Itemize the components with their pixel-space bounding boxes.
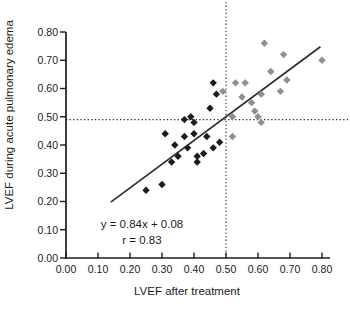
y-axis-title: LVEF during acute pulmonary edema — [3, 20, 15, 210]
y-tick-label: 0.50 — [38, 111, 59, 123]
scatter-figure: 0.000.100.200.300.400.500.600.700.800.00… — [0, 0, 350, 311]
data-point-black-diamonds — [158, 181, 165, 188]
data-point-gray-diamonds — [229, 133, 236, 140]
data-point-black-diamonds — [162, 130, 169, 137]
y-tick-label: 0.10 — [38, 224, 59, 236]
data-point-black-diamonds — [200, 150, 207, 157]
data-point-gray-diamonds — [238, 93, 245, 100]
correlation-coefficient-label: r = 0.83 — [122, 234, 161, 246]
data-point-gray-diamonds — [267, 68, 274, 75]
y-tick-label: 0.30 — [38, 167, 59, 179]
x-tick-label: 0.00 — [56, 263, 77, 275]
data-point-black-diamonds — [210, 79, 217, 86]
y-tick-label: 0.20 — [38, 195, 59, 207]
data-point-black-diamonds — [171, 141, 178, 148]
data-point-gray-diamonds — [283, 76, 290, 83]
x-axis-title: LVEF after treatment — [134, 285, 241, 297]
data-point-black-diamonds — [216, 138, 223, 145]
regression-equation-label: y = 0.84x + 0.08 — [101, 218, 183, 230]
data-point-gray-diamonds — [261, 40, 268, 47]
data-point-black-diamonds — [194, 158, 201, 165]
data-point-gray-diamonds — [318, 57, 325, 64]
y-tick-label: 0.40 — [38, 139, 59, 151]
y-tick-label: 0.00 — [38, 252, 59, 264]
y-tick-label: 0.80 — [38, 26, 59, 38]
data-point-black-diamonds — [206, 105, 213, 112]
data-point-gray-diamonds — [242, 79, 249, 86]
y-tick-label: 0.70 — [38, 54, 59, 66]
x-tick-label: 0.70 — [280, 263, 301, 275]
data-point-black-diamonds — [213, 90, 220, 97]
data-point-black-diamonds — [142, 187, 149, 194]
data-point-black-diamonds — [181, 133, 188, 140]
data-point-black-diamonds — [181, 116, 188, 123]
x-tick-label: 0.60 — [248, 263, 269, 275]
data-point-black-diamonds — [190, 130, 197, 137]
data-point-gray-diamonds — [219, 88, 226, 95]
data-point-gray-diamonds — [280, 51, 287, 58]
data-point-black-diamonds — [184, 144, 191, 151]
x-tick-label: 0.20 — [120, 263, 141, 275]
x-tick-label: 0.40 — [184, 263, 205, 275]
y-tick-label: 0.60 — [38, 82, 59, 94]
plot-generated-layer: 0.000.100.200.300.400.500.600.700.800.00… — [38, 2, 348, 275]
data-point-gray-diamonds — [277, 88, 284, 95]
lvef-scatter-plot: 0.000.100.200.300.400.500.600.700.800.00… — [0, 0, 350, 311]
data-point-gray-diamonds — [232, 79, 239, 86]
x-tick-label: 0.50 — [216, 263, 237, 275]
x-tick-label: 0.80 — [312, 263, 333, 275]
x-tick-label: 0.10 — [88, 263, 109, 275]
data-point-black-diamonds — [210, 144, 217, 151]
regression-line — [111, 47, 321, 202]
x-tick-label: 0.30 — [152, 263, 173, 275]
